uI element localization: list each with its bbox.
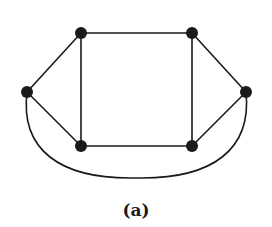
node-right: [240, 86, 252, 98]
edge-curved-left-to-right: [26, 92, 246, 178]
figure-caption: (a): [0, 200, 272, 220]
node-bottom-right: [186, 140, 198, 152]
node-top-left: [75, 27, 87, 39]
edge-right-to-top-right: [192, 33, 246, 92]
edge-left-to-top-left: [27, 33, 81, 92]
nodes: [21, 27, 252, 152]
node-left: [21, 86, 33, 98]
node-bottom-left: [75, 140, 87, 152]
edge-left-to-bottom-left: [27, 92, 81, 146]
node-top-right: [186, 27, 198, 39]
graph-diagram: [0, 0, 272, 227]
edges: [26, 33, 246, 178]
